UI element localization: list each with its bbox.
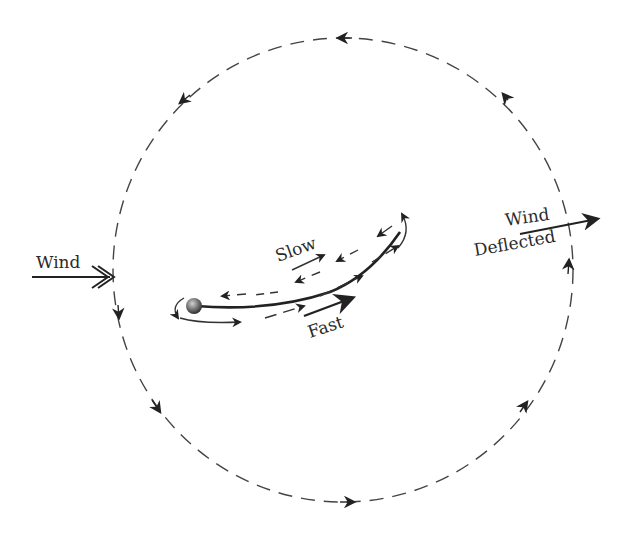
- leading-edge-ball: [186, 298, 202, 314]
- wind-in-label: Wind: [36, 252, 81, 272]
- loop-arrow-upper-left: [180, 95, 190, 103]
- loop-arrow-right: [568, 260, 569, 274]
- airfoil-circulation-diagram: Wind Wind Deflected Slow Fast: [0, 0, 632, 535]
- fast-label: Fast: [305, 312, 346, 342]
- circulation-loop: [113, 38, 573, 502]
- loop-arrow-lower-left: [152, 400, 160, 412]
- loop-arrow-upper-right: [503, 94, 508, 100]
- fast-arrow: [304, 298, 352, 316]
- wind-deflected-label-2: Deflected: [472, 226, 557, 260]
- wind-deflected-label-1: Wind: [504, 204, 551, 230]
- loop-arrow-left: [118, 305, 119, 318]
